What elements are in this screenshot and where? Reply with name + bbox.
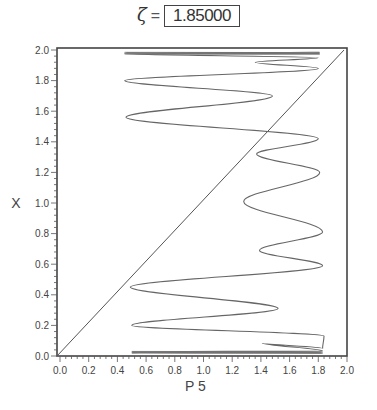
x-tick-label: 1.8 bbox=[311, 365, 325, 376]
x-tick-label: 1.2 bbox=[225, 365, 239, 376]
x-tick-label: 1.4 bbox=[254, 365, 268, 376]
y-tick-label: 0.6 bbox=[35, 259, 49, 270]
x-tick-label: 1.0 bbox=[197, 365, 211, 376]
y-tick-label: 0.8 bbox=[35, 228, 49, 239]
chart-plot: 0.00.20.40.60.81.01.21.41.61.82.00.00.20… bbox=[0, 0, 377, 410]
x-tick-label: 1.6 bbox=[283, 365, 297, 376]
x-tick-label: 0.8 bbox=[168, 365, 182, 376]
y-tick-label: 2.0 bbox=[35, 45, 49, 56]
y-tick-label: 0.0 bbox=[35, 351, 49, 362]
x-tick-label: 0.0 bbox=[53, 365, 67, 376]
identity-line bbox=[57, 50, 344, 356]
y-tick-label: 1.0 bbox=[35, 198, 49, 209]
y-tick-label: 0.4 bbox=[35, 289, 49, 300]
x-tick-label: 0.6 bbox=[139, 365, 153, 376]
x-axis-label: P 5 bbox=[185, 378, 206, 394]
x-tick-label: 0.2 bbox=[82, 365, 96, 376]
y-tick-label: 1.4 bbox=[35, 136, 49, 147]
x-tick-label: 0.4 bbox=[110, 365, 124, 376]
y-tick-label: 1.2 bbox=[35, 167, 49, 178]
y-axis-label: X bbox=[11, 195, 21, 211]
y-tick-label: 1.8 bbox=[35, 75, 49, 86]
x-tick-label: 2.0 bbox=[340, 365, 354, 376]
y-tick-label: 1.6 bbox=[35, 106, 49, 117]
y-tick-label: 0.2 bbox=[35, 320, 49, 331]
oscillating-curve bbox=[125, 52, 324, 353]
